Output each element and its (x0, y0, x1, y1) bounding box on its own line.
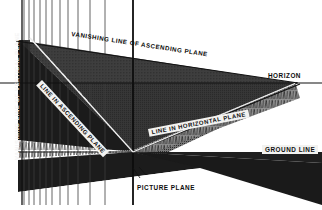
vanishing-point-marker (295, 82, 297, 84)
perspective-diagram: VANISHING LINE OF ASCENDING PLANE VANISH… (0, 0, 322, 210)
diagram-canvas (0, 0, 322, 210)
label-picture-plane: PICTURE PLANE (137, 184, 195, 191)
label-horizon: HORIZON (268, 72, 301, 79)
label-ground-line: GROUND LINE (262, 145, 318, 154)
label-vanishing-line-vertical-plane: VANISHING LINE OF VERTICAL PLANE (14, 32, 20, 160)
foreground-wedge (18, 152, 322, 210)
